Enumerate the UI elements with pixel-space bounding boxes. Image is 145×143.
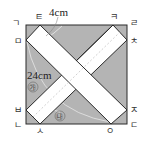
region-label-na: ㉯	[56, 113, 63, 121]
vertex-label-ㅈ: ㅈ	[130, 105, 138, 115]
vertex-label-ㅅ: ㅅ	[36, 126, 44, 136]
geometry-figure: 4cm 24cm ㄱ ㅌ ㅋ ㄹ ㅁ ㅊ ㅂ ㅈ ㄴ ㅅ ㅇ ㄷ ㉮ ㉯	[0, 0, 145, 143]
vertex-label-ㄹ: ㄹ	[130, 18, 138, 28]
label-24cm: 24cm	[27, 69, 52, 81]
vertex-label-ㅊ: ㅊ	[130, 36, 138, 46]
vertex-label-ㅇ: ㅇ	[106, 126, 114, 136]
vertex-label-ㄱ: ㄱ	[12, 18, 20, 28]
vertex-label-ㄷ: ㄷ	[130, 120, 138, 130]
region-label-ga: ㉮	[29, 84, 36, 92]
label-4cm: 4cm	[49, 6, 68, 18]
vertex-label-ㅁ: ㅁ	[14, 36, 22, 46]
vertex-label-ㅂ: ㅂ	[14, 105, 22, 115]
vertex-label-ㅌ: ㅌ	[35, 12, 43, 22]
vertex-label-ㄴ: ㄴ	[14, 120, 22, 130]
vertex-label-ㅋ: ㅋ	[110, 12, 118, 22]
